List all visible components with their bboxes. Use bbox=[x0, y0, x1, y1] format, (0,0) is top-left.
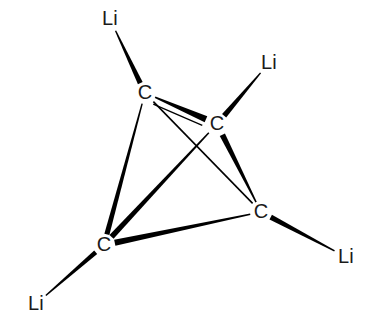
bond-c1-c3 bbox=[104, 103, 142, 235]
bond-c2-c4 bbox=[220, 133, 257, 202]
atom-label-c2: C bbox=[210, 112, 225, 134]
molecular-structure-figure: CCCCLiLiLiLi bbox=[0, 0, 369, 332]
bond-layer bbox=[45, 30, 335, 296]
atom-label-c1: C bbox=[138, 81, 153, 103]
structure-canvas: CCCCLiLiLiLi bbox=[0, 0, 369, 332]
bond-c3-li4 bbox=[45, 250, 97, 296]
bond-c1-c2 bbox=[155, 97, 207, 123]
bond-c3-c4 bbox=[114, 213, 250, 245]
bond-c4-li3 bbox=[270, 215, 335, 252]
atom-label-c4: C bbox=[254, 200, 269, 222]
bond-c3-c2 bbox=[109, 132, 209, 239]
atom-label-li4: Li bbox=[28, 292, 44, 314]
bond-li1-c1 bbox=[115, 30, 143, 84]
atom-label-li1: Li bbox=[102, 7, 118, 29]
bond-li2-c2 bbox=[222, 72, 261, 117]
atom-label-li2: Li bbox=[261, 51, 277, 73]
atom-label-c3: C bbox=[97, 233, 112, 255]
atom-label-li3: Li bbox=[338, 245, 354, 267]
